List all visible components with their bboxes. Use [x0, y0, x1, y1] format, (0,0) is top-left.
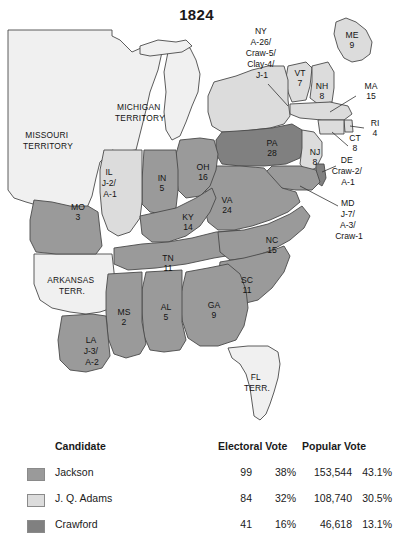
legend-electoral-pct: 32% [262, 492, 296, 504]
state-LA [58, 314, 110, 372]
label-PA: PA28 [267, 138, 278, 158]
label-SC: SC11 [241, 275, 253, 295]
legend-table: Candidate Electoral Vote Popular Vote Ja… [0, 438, 393, 525]
label-missouri-territory: MISSOURI TERRITORY [23, 130, 73, 151]
legend-electoral-votes: 99 [222, 466, 252, 478]
legend-header-candidate: Candidate [55, 440, 106, 452]
legend-popular-pct: 30.5% [356, 492, 392, 504]
state-CT [318, 120, 344, 134]
leader-md [300, 186, 338, 206]
label-RI: RI4 [371, 118, 380, 138]
swatch-jackson [27, 468, 45, 481]
label-KY: KY14 [182, 212, 194, 232]
legend-header-electoral: Electoral Vote [218, 440, 296, 452]
label-michigan-territory: MICHIGAN TERRITORY [115, 102, 165, 123]
state-NY [208, 66, 290, 132]
legend-electoral-pct: 38% [262, 466, 296, 478]
label-CT: CT8 [349, 133, 361, 153]
legend-electoral-votes: 84 [222, 492, 252, 504]
legend-popular-votes: 46,618 [300, 518, 352, 530]
territory-michigan [164, 44, 200, 140]
label-NC: NC15 [266, 235, 278, 255]
legend-header-popular: Popular Vote [302, 440, 392, 452]
legend-electoral-votes: 41 [222, 518, 252, 530]
label-MA: MA15 [365, 81, 378, 101]
label-OH: OH16 [197, 162, 210, 182]
label-TN: TN11 [162, 253, 173, 273]
legend-header-row: Candidate Electoral Vote Popular Vote [0, 438, 393, 464]
legend-popular-votes: 108,740 [300, 492, 352, 504]
swatch-adams [27, 494, 45, 507]
legend-candidate-name: J. Q. Adams [55, 492, 112, 504]
state-MA [290, 102, 352, 120]
legend-row-jackson: Jackson 99 38% 153,544 43.1% [0, 463, 393, 489]
legend-row-crawford: Crawford 41 16% 46,618 13.1% [0, 515, 393, 537]
legend-electoral-pct: 16% [262, 518, 296, 530]
label-LA: LA J-3/ A-2 [84, 335, 101, 367]
swatch-crawford [27, 520, 45, 533]
legend-popular-pct: 43.1% [356, 466, 392, 478]
electoral-map: .st{stroke:#4a4a4a;stroke-width:0.9;stro… [0, 0, 393, 432]
state-MO [30, 200, 102, 254]
map-svg: .st{stroke:#4a4a4a;stroke-width:0.9;stro… [0, 0, 393, 432]
legend-popular-votes: 153,544 [300, 466, 352, 478]
label-MD: MD J-7/ A-3/ Craw-1 [335, 198, 363, 241]
label-DE: DE Craw-2/ A-1 [332, 155, 364, 187]
legend-candidate-name: Jackson [55, 466, 94, 478]
legend-candidate-name: Crawford [55, 518, 98, 530]
legend-row-adams: J. Q. Adams 84 32% 108,740 30.5% [0, 489, 393, 515]
label-VA: VA24 [222, 195, 233, 215]
legend-popular-pct: 13.1% [356, 518, 392, 530]
